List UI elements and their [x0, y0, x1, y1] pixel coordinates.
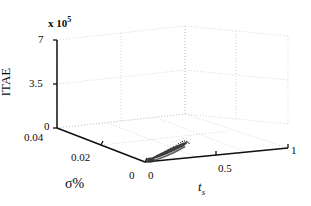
- z-axis-title: ITAE: [0, 57, 12, 107]
- z-tick-label-0: 0: [44, 121, 50, 132]
- z-tick-label-3-5: 3.5: [29, 78, 43, 89]
- right-back-wall-grid: [185, 26, 288, 124]
- z-tick-label-7: 7: [38, 34, 44, 45]
- x-tick-label-0: 0: [129, 170, 135, 181]
- exponent-power: 5: [67, 15, 71, 24]
- y-axis-title-subscript: s: [202, 187, 206, 197]
- y-tick-label-0-5: 0.5: [218, 163, 232, 174]
- z-axis-exponent-label: x 105: [48, 16, 71, 29]
- left-back-wall-grid: [57, 26, 185, 128]
- y-tick-label-1: 1: [291, 145, 297, 156]
- x-tick-label-0-04: 0.04: [24, 132, 43, 143]
- exponent-base: x 10: [48, 17, 67, 29]
- y-axis-title: ts: [198, 180, 205, 197]
- plot-canvas: [0, 0, 311, 206]
- x-tick-label-0-02: 0.02: [71, 152, 90, 163]
- itae-3d-scatter-figure: x 105 ITAE 7 3.5 0 0.04 0.02 0 σ% 0 0.5 …: [0, 0, 311, 206]
- floor-grid: [57, 114, 288, 162]
- x-axis-title: σ%: [65, 177, 84, 191]
- y-tick-label-0: 0: [148, 170, 154, 181]
- x-axis-ticks: [101, 141, 147, 162]
